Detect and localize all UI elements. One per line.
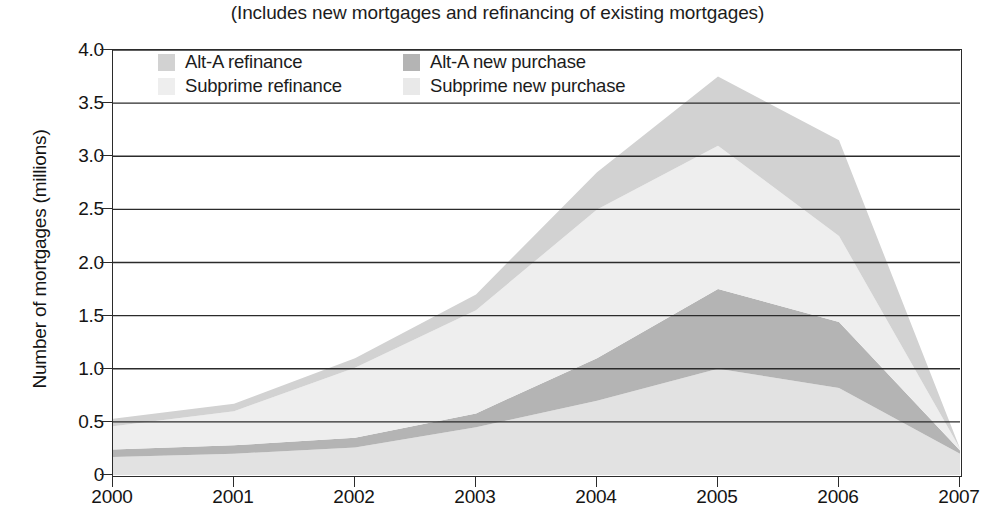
x-tick-mark	[112, 477, 113, 487]
chart-figure: (Includes new mortgages and refinancing …	[0, 0, 989, 526]
legend-label: Alt-A new purchase	[430, 52, 586, 72]
legend-entry[interactable]: Alt-A refinance	[158, 52, 302, 72]
chart-legend: Alt-A refinanceAlt-A new purchaseSubprim…	[158, 52, 598, 98]
x-tick-label: 2001	[188, 486, 278, 508]
legend-swatch-icon	[403, 54, 420, 71]
legend-label: Subprime new purchase	[430, 76, 625, 96]
legend-entry[interactable]: Alt-A new purchase	[403, 52, 586, 72]
legend-swatch-icon	[403, 78, 420, 95]
y-tick-mark	[100, 315, 112, 316]
x-tick-label: 2003	[430, 486, 520, 508]
x-tick-label: 2000	[67, 486, 157, 508]
stacked-area-plot	[113, 50, 960, 475]
x-tick-mark	[596, 477, 597, 487]
y-tick-mark	[100, 49, 112, 50]
y-tick-mark	[100, 262, 112, 263]
y-tick-label: 1.5	[30, 305, 104, 324]
x-tick-mark	[838, 477, 839, 487]
x-tick-label: 2007	[914, 486, 989, 508]
x-axis-tick-labels: 20002001200220032004200520062007	[112, 486, 962, 516]
y-tick-mark	[100, 474, 112, 475]
subtitle-bar: (Includes new mortgages and refinancing …	[0, 0, 989, 30]
y-tick-mark	[100, 102, 112, 103]
x-tick-label: 2002	[309, 486, 399, 508]
x-tick-mark	[354, 477, 355, 487]
x-tick-mark	[717, 477, 718, 487]
x-tick-label: 2006	[793, 486, 883, 508]
y-axis-tick-labels: 00.51.01.52.02.53.03.54.0	[30, 49, 104, 477]
y-tick-label: 2.0	[30, 252, 104, 271]
x-tick-mark	[959, 477, 960, 487]
y-tick-label: 3.5	[30, 93, 104, 112]
y-tick-label: 0.5	[30, 411, 104, 430]
legend-label: Alt-A refinance	[185, 52, 302, 72]
y-tick-mark	[100, 155, 112, 156]
x-tick-mark	[233, 477, 234, 487]
chart-subtitle: (Includes new mortgages and refinancing …	[231, 0, 764, 26]
legend-entry[interactable]: Subprime refinance	[158, 76, 342, 96]
y-tick-label: 1.0	[30, 358, 104, 377]
y-tick-mark	[100, 208, 112, 209]
y-tick-label: 3.0	[30, 146, 104, 165]
y-tick-label: 0	[30, 465, 104, 484]
legend-label: Subprime refinance	[185, 76, 342, 96]
plot-area	[112, 49, 962, 477]
y-tick-mark	[100, 421, 112, 422]
legend-swatch-icon	[158, 54, 175, 71]
y-tick-label: 4.0	[30, 40, 104, 59]
legend-entry[interactable]: Subprime new purchase	[403, 76, 625, 96]
x-tick-mark	[475, 477, 476, 487]
legend-swatch-icon	[158, 78, 175, 95]
y-tick-label: 2.5	[30, 199, 104, 218]
x-tick-label: 2005	[672, 486, 762, 508]
y-tick-mark	[100, 368, 112, 369]
x-tick-label: 2004	[551, 486, 641, 508]
